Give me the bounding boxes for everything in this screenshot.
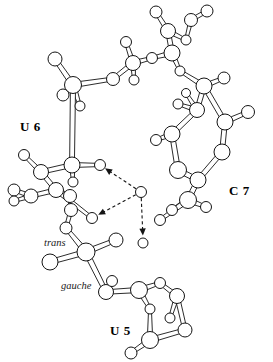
atom-a46 xyxy=(65,204,78,217)
atom-layer xyxy=(8,5,255,359)
hydrogen-bond xyxy=(141,198,143,233)
atom-a9 xyxy=(147,53,158,64)
atom-a48 xyxy=(77,243,95,261)
atom-a17 xyxy=(196,78,212,94)
atom-a25 xyxy=(151,135,162,146)
atom-a53 xyxy=(131,282,148,299)
atom-a59 xyxy=(142,332,159,349)
atom-a4 xyxy=(75,101,85,111)
atom-a26 xyxy=(214,144,230,160)
atom-a37 xyxy=(64,157,80,173)
atom-a29 xyxy=(180,192,197,209)
atom-a15 xyxy=(201,5,213,17)
atom-a22 xyxy=(217,114,233,130)
atom-a39 xyxy=(19,150,30,161)
residue-label-c7: C 7 xyxy=(229,184,250,197)
bond xyxy=(70,89,76,162)
atom-a27 xyxy=(170,162,187,179)
conformer-label-gauche: gauche xyxy=(61,281,91,292)
atom-a49 xyxy=(42,254,58,270)
hydrogen-bond-arrowhead xyxy=(139,228,145,235)
conformer-label-trans: trans xyxy=(44,238,66,249)
atom-a3 xyxy=(57,89,69,101)
atom-a32 xyxy=(155,215,166,226)
atom-a56 xyxy=(170,289,185,304)
hydrogen-bond-layer xyxy=(98,168,146,235)
atom-a43 xyxy=(8,184,20,196)
atom-a44 xyxy=(9,196,19,206)
atom-a34 xyxy=(95,160,106,171)
atom-a7 xyxy=(121,37,132,48)
atom-a24 xyxy=(164,126,180,142)
atom-a8 xyxy=(129,75,139,85)
atom-a13 xyxy=(181,35,191,45)
hydrogen-bond xyxy=(107,170,136,189)
atom-a38 xyxy=(34,165,49,180)
atom-a5 xyxy=(107,73,120,86)
atom-a40 xyxy=(49,183,64,198)
atom-a57 xyxy=(165,313,175,323)
atom-a47 xyxy=(60,222,72,234)
atom-a35 xyxy=(87,213,98,224)
molecular-structure-figure: U 6 C 7 U 5 trans gauche xyxy=(0,0,273,362)
atom-a52 xyxy=(107,276,118,287)
atom-a50 xyxy=(109,233,123,247)
atom-a18 xyxy=(218,72,230,84)
atom-a36 xyxy=(138,238,148,248)
atom-a19 xyxy=(190,103,205,118)
hydrogen-bond-arrowhead xyxy=(105,168,113,175)
atom-a45 xyxy=(68,177,78,187)
atom-a60 xyxy=(125,347,137,359)
atom-a30 xyxy=(167,205,178,216)
atom-a1 xyxy=(48,52,62,66)
atom-a31 xyxy=(201,202,212,213)
residue-label-u6: U 6 xyxy=(20,120,41,133)
atom-a11 xyxy=(161,24,176,39)
atom-a54 xyxy=(155,278,166,289)
atom-a20 xyxy=(173,99,183,109)
atom-a55 xyxy=(145,304,155,314)
atom-a21 xyxy=(182,89,191,98)
atom-a12 xyxy=(150,6,162,18)
atom-a23 xyxy=(242,106,255,119)
residue-label-u5: U 5 xyxy=(110,324,131,337)
atom-a33 xyxy=(136,187,147,198)
atom-a14 xyxy=(185,14,198,27)
atom-a42 xyxy=(24,189,38,203)
atom-a58 xyxy=(178,323,192,337)
atom-a41 xyxy=(64,190,77,203)
atom-a10 xyxy=(164,45,180,61)
hydrogen-bond xyxy=(100,195,135,214)
atom-a6 xyxy=(126,56,141,71)
atom-a28 xyxy=(190,172,206,188)
atom-a16 xyxy=(175,66,185,76)
molecule-canvas xyxy=(0,0,273,362)
